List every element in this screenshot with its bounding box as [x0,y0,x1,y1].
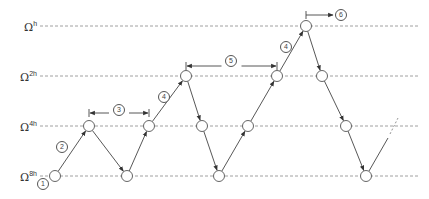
level-label-h: Ωh [24,20,37,33]
grid-node-h [301,21,312,32]
omega-symbol: Ω [20,71,29,84]
grid-node-4h [84,121,95,132]
step-label-1: 1 [37,178,49,190]
cycle-edge [324,81,343,121]
step-label-4: 4 [280,41,292,53]
grid-node-8h [214,171,225,182]
cycle-edge [188,81,200,120]
cycle-edges [58,31,398,171]
cycle-edge [348,131,364,170]
omega-symbol: Ω [24,21,33,34]
grid-node-8h [122,171,133,182]
level-superscript: 2h [29,70,37,77]
grid-node-2h [317,71,328,82]
omega-symbol: Ω [20,121,29,134]
grid-node-8h [50,171,61,182]
level-label-8h: Ω8h [20,170,37,183]
cycle-edge [222,131,245,171]
step-label-2: 2 [56,141,68,153]
continuation-edge [369,138,388,171]
grid-nodes [50,21,372,182]
multigrid-diagram: ΩhΩ2hΩ4hΩ8h 1234546 [0,0,429,199]
omega-symbol: Ω [20,171,29,184]
cycle-edge [308,31,320,70]
level-superscript: 8h [29,170,37,177]
step-label-4: 4 [158,91,170,103]
grid-node-2h [272,71,283,82]
step-label-5: 5 [225,55,237,67]
diagram-canvas [0,0,429,199]
grid-node-4h [144,121,155,132]
level-superscript: 4h [29,120,37,127]
span-arrows [89,11,333,117]
level-label-4h: Ω4h [20,120,37,133]
grid-node-4h [341,121,352,132]
step-label-6: 6 [335,9,347,21]
grid-node-8h [361,171,372,182]
grid-node-4h [197,121,208,132]
level-grid-lines [40,26,418,176]
level-label-2h: Ω2h [20,70,37,83]
level-superscript: h [33,20,37,27]
grid-node-2h [181,71,192,82]
cycle-edge [204,131,217,170]
cycle-edge [129,131,146,170]
cycle-edge [251,81,274,121]
step-label-3: 3 [113,104,125,116]
cycle-edge [92,130,123,171]
grid-node-4h [243,121,254,132]
